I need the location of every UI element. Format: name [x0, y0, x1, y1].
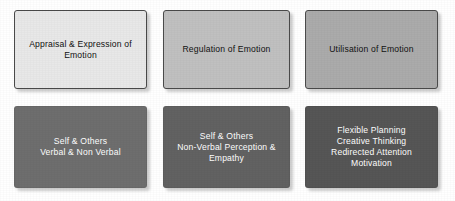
- box-self-others-verbal[interactable]: Self & Others Verbal & Non Verbal: [14, 106, 147, 188]
- box-utilisation[interactable]: Utilisation of Emotion: [305, 10, 438, 89]
- box-planning-thinking-label: Flexible Planning Creative Thinking Redi…: [325, 125, 418, 169]
- emotional-intelligence-diagram: Appraisal & Expression of Emotion Regula…: [0, 0, 455, 201]
- box-planning-thinking[interactable]: Flexible Planning Creative Thinking Redi…: [305, 106, 438, 188]
- box-appraisal-expression[interactable]: Appraisal & Expression of Emotion: [14, 10, 147, 89]
- box-self-others-nonverbal-label: Self & Others Non-Verbal Perception & Em…: [171, 131, 282, 164]
- box-regulation[interactable]: Regulation of Emotion: [163, 10, 290, 89]
- box-self-others-verbal-label: Self & Others Verbal & Non Verbal: [34, 136, 127, 158]
- box-self-others-nonverbal[interactable]: Self & Others Non-Verbal Perception & Em…: [163, 106, 290, 188]
- box-regulation-label: Regulation of Emotion: [176, 44, 276, 55]
- box-appraisal-expression-label: Appraisal & Expression of Emotion: [23, 39, 138, 61]
- box-utilisation-label: Utilisation of Emotion: [323, 44, 420, 55]
